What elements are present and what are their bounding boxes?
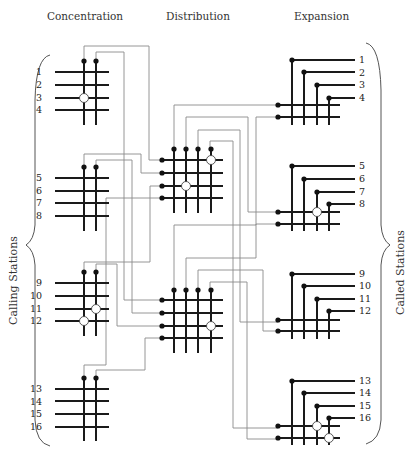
calling-stations-label: Calling Stations — [7, 236, 20, 325]
called-station-1: 1 — [359, 54, 365, 65]
calling-station-10: 10 — [30, 290, 42, 301]
called-station-4: 4 — [359, 92, 365, 103]
active-crosspoint — [80, 94, 89, 103]
calling-station-7: 7 — [36, 197, 42, 208]
called-station-10: 10 — [359, 280, 371, 291]
concentration-block-2: 5 6 7 8 — [36, 164, 109, 231]
called-station-2: 2 — [359, 67, 365, 78]
switching-network-diagram: Concentration Distribution Expansion Cal… — [0, 0, 412, 454]
heading-concentration: Concentration — [47, 10, 123, 22]
active-crosspoint — [325, 434, 334, 443]
calling-station-1: 1 — [36, 66, 42, 77]
called-station-13: 13 — [359, 375, 371, 386]
interconnect-wires — [84, 46, 278, 439]
active-crosspoint — [80, 317, 89, 326]
calling-station-15: 15 — [30, 408, 42, 419]
concentration-block-3: 9 10 11 12 — [30, 269, 109, 336]
calling-station-6: 6 — [36, 185, 42, 196]
calling-station-9: 9 — [36, 277, 42, 288]
calling-station-13: 13 — [30, 383, 42, 394]
called-station-9: 9 — [359, 268, 365, 279]
concentration-block-4: 13 14 15 16 — [30, 375, 109, 441]
called-stations-label: Called Stations — [394, 230, 407, 315]
called-station-3: 3 — [359, 79, 365, 90]
active-crosspoint — [182, 182, 191, 191]
calling-station-8: 8 — [36, 210, 42, 221]
calling-station-5: 5 — [36, 172, 42, 183]
calling-station-11: 11 — [30, 303, 42, 314]
calling-station-4: 4 — [36, 104, 42, 115]
expansion-block-1: 1 2 3 4 — [275, 54, 365, 125]
active-crosspoint — [313, 422, 322, 431]
heading-distribution: Distribution — [166, 10, 230, 22]
distribution-block-1 — [159, 146, 223, 213]
called-station-11: 11 — [359, 293, 371, 304]
called-station-16: 16 — [359, 412, 371, 423]
calling-station-14: 14 — [30, 396, 42, 407]
calling-station-3: 3 — [36, 92, 42, 103]
calling-station-2: 2 — [36, 79, 42, 90]
calling-station-12: 12 — [30, 315, 42, 326]
distribution-block-2 — [159, 287, 223, 353]
called-station-7: 7 — [359, 186, 365, 197]
called-station-5: 5 — [359, 160, 365, 171]
active-crosspoint — [92, 305, 101, 314]
concentration-block-1: 1 2 3 4 — [36, 58, 109, 125]
called-station-12: 12 — [359, 305, 371, 316]
expansion-block-3: 9 10 11 12 — [275, 268, 371, 339]
active-crosspoint — [207, 322, 216, 331]
active-crosspoint — [207, 156, 216, 165]
called-station-15: 15 — [359, 400, 371, 411]
called-station-8: 8 — [359, 198, 365, 209]
active-crosspoint — [313, 208, 322, 217]
expansion-block-4: 13 14 15 16 — [275, 375, 371, 445]
called-station-14: 14 — [359, 387, 371, 398]
heading-expansion: Expansion — [294, 10, 349, 22]
called-station-6: 6 — [359, 173, 365, 184]
calling-station-16: 16 — [30, 421, 42, 432]
expansion-block-2: 5 6 7 8 — [275, 160, 365, 231]
